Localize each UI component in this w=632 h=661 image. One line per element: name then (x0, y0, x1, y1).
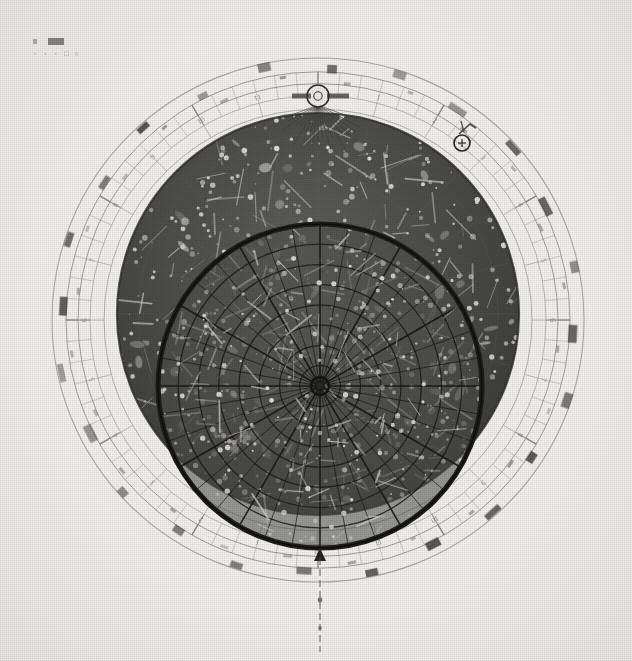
star (487, 217, 492, 222)
star (256, 353, 258, 355)
star (164, 413, 166, 415)
calendar-tick (112, 456, 122, 463)
star (392, 391, 396, 395)
star (431, 433, 434, 436)
scale-sublabel (407, 90, 413, 95)
star (291, 256, 296, 261)
calendar-tick (274, 76, 276, 88)
degree-tick (121, 449, 131, 456)
star (396, 413, 399, 416)
degree-tick (545, 299, 557, 300)
month-label-block (538, 196, 553, 217)
star (225, 445, 230, 450)
star (268, 533, 271, 536)
star (318, 142, 320, 144)
hour-scale-label: 11 (253, 92, 263, 103)
hour-tick (469, 161, 479, 171)
horizon-window[interactable] (158, 218, 482, 548)
star (357, 468, 360, 471)
calendar-tick (173, 514, 180, 524)
calendar-tick (67, 341, 79, 342)
star (320, 345, 324, 349)
hour-tick (525, 262, 539, 266)
star (230, 176, 234, 180)
star (149, 208, 153, 212)
star (242, 391, 245, 394)
star (239, 360, 242, 363)
star (426, 425, 429, 428)
star (316, 457, 318, 459)
date-marker[interactable] (454, 121, 476, 151)
star (305, 394, 309, 398)
star (181, 280, 183, 282)
calendar-tick (339, 73, 340, 85)
degree-tick (493, 168, 502, 176)
star (279, 303, 283, 307)
calendar-tick (212, 95, 217, 106)
star (343, 445, 345, 447)
star (216, 392, 221, 397)
degree-tick (505, 184, 515, 191)
star (225, 488, 230, 493)
star (376, 393, 377, 394)
star (214, 312, 216, 314)
star (351, 454, 353, 456)
degree-tick (358, 87, 360, 99)
degree-tick (164, 492, 172, 501)
star (185, 270, 187, 272)
star (270, 147, 272, 149)
star (274, 146, 279, 151)
star (343, 150, 344, 151)
star (238, 480, 240, 482)
star (402, 468, 404, 470)
star (440, 337, 442, 339)
star (224, 474, 226, 476)
calendar-tick (173, 117, 180, 127)
calendar-tick (380, 548, 383, 559)
hour-scale-label: 7 (539, 377, 549, 383)
constellation-line (133, 323, 152, 324)
hour-scale-label: 4 (110, 431, 120, 439)
degree-tick (236, 98, 240, 109)
star (318, 358, 322, 362)
star (474, 301, 479, 306)
hour-tick (121, 425, 133, 432)
star (329, 317, 332, 320)
hour-tick (469, 469, 479, 479)
star (400, 492, 405, 497)
degree-tick (79, 340, 91, 341)
star (462, 320, 464, 322)
calendar-tick (400, 542, 404, 553)
star (331, 281, 336, 286)
star (274, 347, 277, 350)
star (129, 332, 133, 336)
constellation-line (197, 424, 216, 425)
scale-sublabel (77, 288, 80, 295)
calendar-tick (70, 361, 82, 363)
star (241, 313, 244, 316)
constellation-line (214, 214, 215, 235)
star (200, 180, 205, 185)
star (385, 429, 390, 434)
calendar-tick (90, 420, 101, 425)
star (331, 306, 333, 308)
degree-tick (396, 98, 400, 109)
star (210, 427, 215, 432)
star (431, 262, 434, 265)
star (233, 180, 237, 184)
star (334, 268, 338, 272)
star (221, 390, 223, 392)
calendar-tick (192, 525, 198, 535)
month-label-block (425, 537, 442, 551)
degree-tick (414, 524, 419, 535)
calendar-tick (472, 130, 480, 139)
star (411, 420, 415, 424)
star (363, 258, 366, 261)
star (368, 421, 370, 423)
star (190, 251, 196, 257)
star (384, 451, 388, 455)
degree-tick (217, 106, 222, 117)
star (336, 209, 340, 213)
star (423, 296, 428, 301)
star (310, 536, 315, 541)
